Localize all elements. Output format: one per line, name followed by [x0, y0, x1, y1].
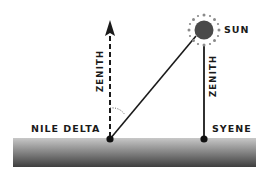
zenith-label-right: ZENITH [208, 55, 218, 97]
eratosthenes-diagram: SUN NILE DELTA SYENE ZENITH ZENITH [0, 0, 279, 178]
arrowhead-icon [105, 20, 115, 36]
syene-label: SYENE [212, 123, 252, 134]
nile-delta-label: NILE DELTA [31, 123, 100, 134]
syene-point [200, 135, 207, 142]
sun-label: SUN [224, 24, 250, 35]
nile-delta-point [106, 135, 113, 142]
ground-surface [13, 138, 256, 167]
angle-arc [110, 108, 125, 115]
sun-ray-line [110, 36, 196, 139]
zenith-arrow-nile-delta [105, 20, 115, 137]
sun-icon [188, 14, 221, 47]
zenith-label-left: ZENITH [95, 50, 105, 92]
